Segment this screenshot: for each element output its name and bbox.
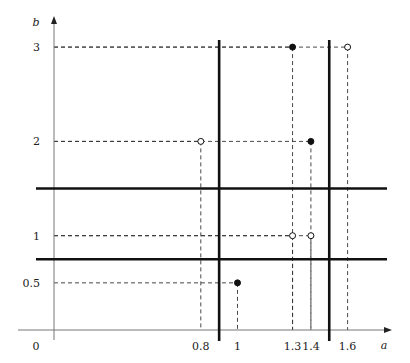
open-point <box>290 233 296 239</box>
data-points <box>198 44 351 286</box>
axes <box>18 20 388 340</box>
open-point <box>308 233 314 239</box>
tick-labels: 0.811.31.41.60.51230ab <box>23 16 388 353</box>
filled-point <box>290 44 296 50</box>
x-tick-label: 1.6 <box>339 340 357 353</box>
chart-canvas: 0.811.31.41.60.51230ab <box>0 0 410 363</box>
y-tick-label: 3 <box>33 41 40 54</box>
x-tick-label: 0.8 <box>192 340 210 353</box>
thick-boundary-lines <box>36 40 387 341</box>
y-tick-label: 1 <box>33 230 40 243</box>
x-tick-label: 1.3 <box>284 340 302 353</box>
origin-label: 0 <box>33 340 40 353</box>
filled-point <box>235 280 241 286</box>
filled-point <box>308 138 314 144</box>
x-tick-label: 1 <box>234 340 241 353</box>
y-tick-label: 0.5 <box>23 277 41 290</box>
open-point <box>198 138 204 144</box>
x-axis-label: a <box>381 339 388 352</box>
x-tick-label: 1.4 <box>302 340 320 353</box>
open-point <box>345 44 351 50</box>
y-axis-label: b <box>32 16 39 29</box>
y-tick-label: 2 <box>33 135 40 148</box>
